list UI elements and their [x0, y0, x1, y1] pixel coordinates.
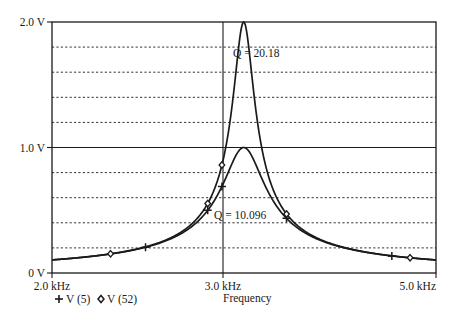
y-label-1v: 1.0 V	[20, 142, 46, 154]
plus-marker-icon	[388, 252, 396, 260]
plus-marker-icon	[55, 295, 63, 303]
x-label-2khz: 2.0 kHz	[34, 280, 70, 292]
plus-marker-icon	[142, 243, 150, 251]
annotation-q-low: Q = 10.096	[214, 209, 266, 221]
annotation-q-high: Q = 20.18	[233, 47, 280, 59]
x-axis-title: Frequency	[223, 292, 272, 305]
y-label-0v: 0 V	[28, 267, 45, 279]
legend-label-v52: V (52)	[107, 293, 137, 306]
curve-v5	[52, 148, 436, 260]
legend-label-v5: V (5)	[66, 293, 91, 306]
x-label-3khz: 3.0 kHz	[205, 280, 241, 292]
diamond-marker-icon	[407, 255, 413, 261]
resonance-chart: 2.0 V 1.0 V 0 V 2.0 kHz 3.0 kHz 5.0 kHz …	[0, 0, 460, 321]
plus-marker-icon	[218, 182, 226, 190]
diamond-marker-icon	[219, 162, 225, 168]
x-label-5khz: 5.0 kHz	[400, 280, 436, 292]
diamond-marker-icon	[98, 296, 104, 303]
legend: V (5) V (52)	[55, 293, 137, 306]
diamond-marker-icon	[108, 251, 114, 257]
y-label-2v: 2.0 V	[20, 16, 46, 28]
